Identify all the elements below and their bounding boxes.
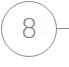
step-node-circle: 8	[1, 1, 57, 57]
step-number-label: 8	[20, 15, 37, 42]
connector-line	[57, 28, 69, 29]
diagram-canvas: 8	[0, 0, 69, 67]
